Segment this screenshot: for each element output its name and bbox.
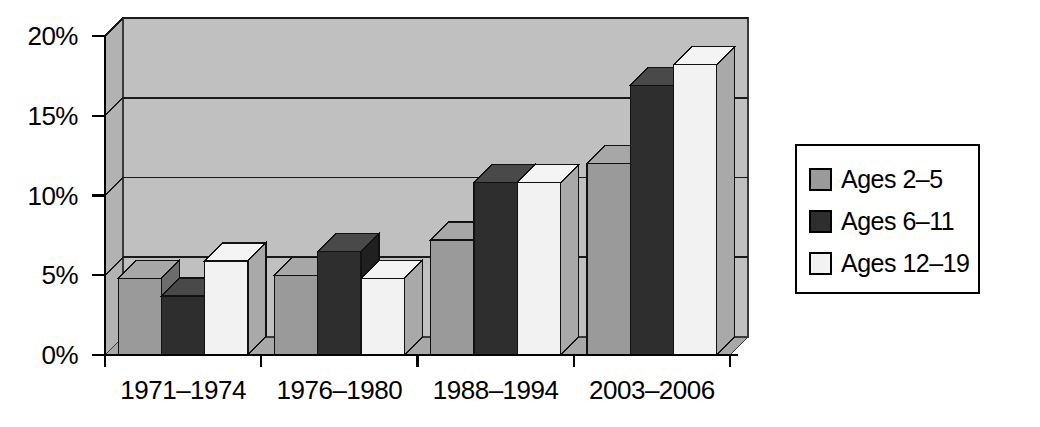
bar-side xyxy=(248,243,266,355)
bar-front xyxy=(474,183,517,355)
bar-side xyxy=(717,47,735,355)
y-axis-tick-label: 10% xyxy=(27,183,78,209)
bar xyxy=(205,243,266,355)
y-axis-tick-label: 15% xyxy=(27,103,78,129)
bar-front xyxy=(162,296,205,355)
legend-swatch-icon xyxy=(809,210,832,233)
bar-front xyxy=(318,251,361,355)
y-axis-tick-label: 20% xyxy=(27,23,78,49)
bar-front xyxy=(118,278,161,355)
legend-item-label: Ages 6–11 xyxy=(841,207,954,236)
bar-front xyxy=(205,261,248,355)
legend-swatch-icon xyxy=(809,252,832,275)
legend: Ages 2–5Ages 6–11Ages 12–19 xyxy=(795,144,980,294)
bar-front xyxy=(361,278,404,355)
bar-chart: 20%15%10%5%0% 1971–19741976–19801988–199… xyxy=(0,0,1040,427)
y-axis-tick-label: 5% xyxy=(41,262,78,288)
bar-front xyxy=(517,183,560,355)
legend-swatch-icon xyxy=(809,168,832,191)
legend-item: Ages 6–11 xyxy=(809,200,968,242)
bar-front xyxy=(431,240,474,355)
bar xyxy=(361,260,422,355)
legend-item: Ages 2–5 xyxy=(809,158,968,200)
legend-item-label: Ages 2–5 xyxy=(841,165,943,194)
bar xyxy=(673,47,734,355)
y-axis-tick-label: 0% xyxy=(41,342,78,368)
bar-side xyxy=(560,165,578,355)
bar-front xyxy=(630,85,673,355)
bar-front xyxy=(673,65,716,355)
bar-front xyxy=(587,164,630,355)
bar-front xyxy=(275,275,318,355)
legend-item: Ages 12–19 xyxy=(809,242,968,284)
legend-item-label: Ages 12–19 xyxy=(841,249,969,278)
x-axis-tick-label: 2003–2006 xyxy=(557,375,747,406)
bar xyxy=(517,165,578,355)
y-axis: 20%15%10%5%0% xyxy=(0,0,78,427)
